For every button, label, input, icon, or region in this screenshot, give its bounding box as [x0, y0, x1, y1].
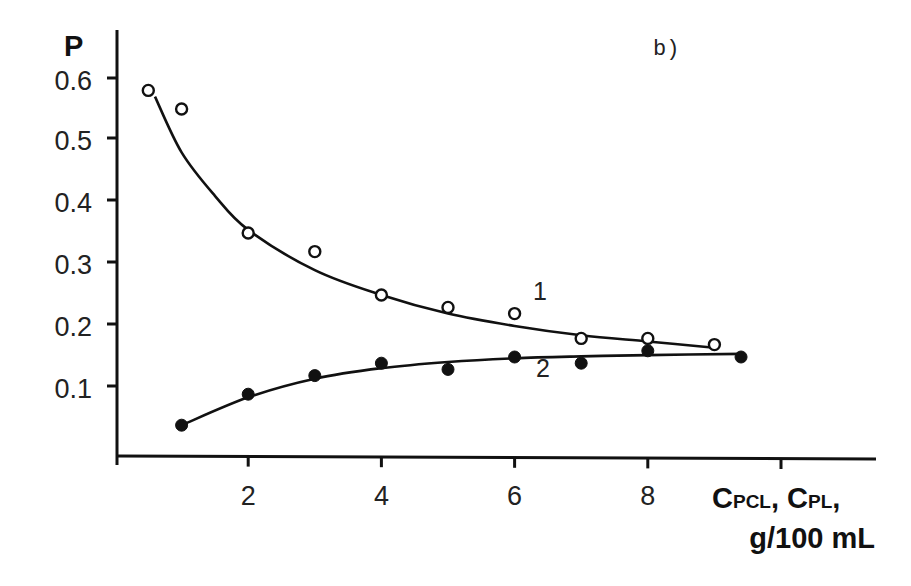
open-circle-marker: [309, 246, 320, 257]
y-tick-label: 0.4: [54, 188, 92, 218]
filled-circle-marker: [509, 351, 521, 363]
x-tick-label: 4: [374, 481, 389, 511]
filled-circle-marker: [735, 351, 747, 363]
filled-circle-marker: [442, 363, 454, 375]
series-label-1: 1: [533, 277, 547, 305]
y-axis-title: P: [64, 30, 83, 62]
x-axis-line: [117, 456, 876, 459]
filled-circle-marker: [176, 419, 188, 431]
x-title-end: ,: [832, 482, 840, 514]
open-circle-marker: [243, 228, 254, 239]
x-title-sep: ,: [771, 482, 787, 514]
y-tick-label: 0.5: [54, 126, 92, 156]
open-circle-marker: [509, 308, 520, 319]
x-tick-label: 2: [241, 481, 256, 511]
x-tick-label: 6: [507, 481, 522, 511]
x-axis-title: CPCL, CPL,: [712, 482, 840, 514]
open-circle-marker: [443, 302, 454, 313]
x-title-sub2: PL: [808, 491, 833, 512]
x-title-sub1: PCL: [733, 491, 771, 512]
filled-circle-marker: [375, 357, 387, 369]
open-circle-marker: [642, 333, 653, 344]
filled-circle-marker: [642, 345, 654, 357]
chart-canvas: 0.10.20.30.40.50.6246812Pb)CPCL, CPL,g/1…: [0, 0, 911, 586]
y-tick-label: 0.3: [54, 250, 92, 280]
data-points: [143, 85, 747, 431]
y-tick-label: 0.2: [54, 312, 92, 342]
fit-curve-series-2: [182, 354, 741, 425]
y-tick-label: 0.1: [54, 374, 92, 404]
fit-curve-series-1: [155, 97, 714, 348]
open-circle-marker: [143, 85, 154, 96]
x-axis-units: g/100 mL: [749, 522, 875, 554]
open-circle-marker: [576, 333, 587, 344]
filled-circle-marker: [575, 357, 587, 369]
open-circle-marker: [376, 290, 387, 301]
open-circle-marker: [709, 339, 720, 350]
series-label-2: 2: [536, 354, 550, 382]
y-tick-label: 0.6: [54, 66, 92, 96]
filled-circle-marker: [242, 388, 254, 400]
x-tick-label: 8: [640, 481, 655, 511]
panel-label: b): [653, 37, 679, 62]
x-title-c1: C: [712, 482, 733, 514]
fit-curves: [155, 97, 741, 426]
filled-circle-marker: [309, 370, 321, 382]
x-title-c2: C: [787, 482, 808, 514]
axes: [107, 30, 876, 469]
open-circle-marker: [176, 104, 187, 115]
